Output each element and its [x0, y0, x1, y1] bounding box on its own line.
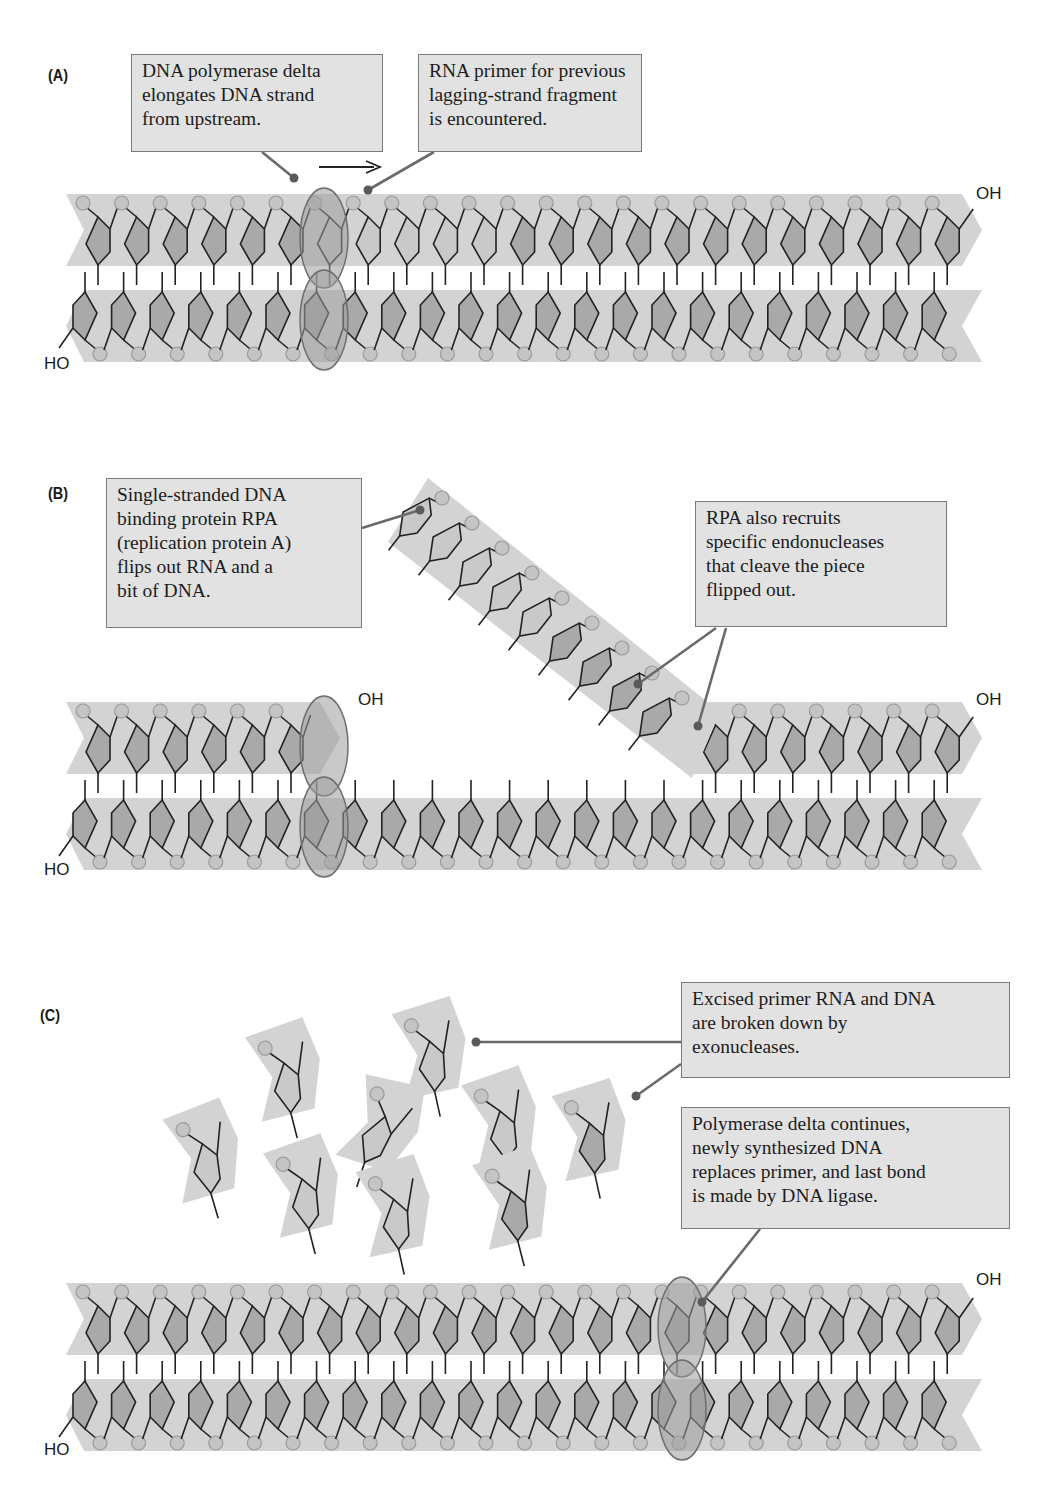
- phosphate-icon: [809, 1285, 823, 1299]
- callout-line: are broken down by: [692, 1011, 1000, 1035]
- phosphate-icon: [887, 1285, 901, 1299]
- free-dna-nucleotide: [470, 1144, 559, 1272]
- phosphate-icon: [462, 1285, 476, 1299]
- base-bond-line: [595, 1173, 601, 1199]
- flipped-out-primer-strand: [379, 478, 720, 778]
- rna-primer-callout: RNA primer for previous lagging-strand f…: [418, 54, 642, 152]
- phosphate-icon: [809, 704, 823, 718]
- phosphate-icon: [153, 196, 167, 210]
- callout-line: (replication protein A): [117, 531, 352, 555]
- phosphate-icon: [501, 1285, 515, 1299]
- three-prime-oh-label: OH: [976, 184, 1002, 204]
- free-rna-nucleotide: [354, 1153, 440, 1280]
- callout-line: that cleave the piece: [706, 554, 937, 578]
- callout-line: specific endonucleases: [706, 530, 937, 554]
- free-rna-nucleotide: [243, 1016, 332, 1144]
- panel-label-a: (A): [48, 66, 68, 86]
- phosphate-icon: [771, 196, 785, 210]
- panel-label-c: (C): [40, 1006, 60, 1026]
- callout-line: newly synthesized DNA: [692, 1136, 1000, 1160]
- phosphate-icon: [192, 704, 206, 718]
- phosphate-icon: [269, 196, 283, 210]
- phosphate-icon: [462, 196, 476, 210]
- phosphate-icon: [616, 1285, 630, 1299]
- phosphate-icon: [115, 1285, 129, 1299]
- callout-line: flips out RNA and a: [117, 555, 352, 579]
- panel-a-duplex: [59, 152, 982, 370]
- phosphate-icon: [925, 196, 939, 210]
- phosphate-icon: [423, 1285, 437, 1299]
- callout-line: from upstream.: [142, 107, 373, 131]
- ligase-callout: Polymerase delta continues, newly synthe…: [681, 1107, 1010, 1229]
- phosphate-icon: [269, 704, 283, 718]
- leader-endpoint-dot: [698, 1298, 707, 1307]
- phosphate-icon: [925, 704, 939, 718]
- phosphate-icon: [848, 196, 862, 210]
- phosphate-icon: [771, 1285, 785, 1299]
- phosphate-icon: [153, 1285, 167, 1299]
- phosphate-icon: [848, 704, 862, 718]
- leader-endpoint-dot: [290, 174, 299, 183]
- callout-line: elongates DNA strand: [142, 83, 373, 107]
- phosphate-icon: [308, 1285, 322, 1299]
- five-prime-ho-label: HO: [44, 1440, 70, 1460]
- leader-endpoint-dot: [694, 722, 703, 731]
- phosphate-icon: [942, 347, 956, 361]
- phosphate-icon: [809, 196, 823, 210]
- excised-nucleotide-fragments: [160, 995, 635, 1280]
- phosphate-icon: [385, 196, 399, 210]
- leader-endpoint-dot: [634, 680, 643, 689]
- phosphate-icon: [230, 704, 244, 718]
- phosphate-icon: [732, 1285, 746, 1299]
- phosphate-icon: [887, 704, 901, 718]
- three-prime-oh-label: OH: [976, 690, 1002, 710]
- phosphate-icon: [192, 196, 206, 210]
- base-bond-line: [435, 1091, 441, 1117]
- callout-line: DNA polymerase delta: [142, 59, 373, 83]
- callout-line: Single-stranded DNA: [117, 483, 352, 507]
- panel-label-b: (B): [48, 484, 68, 504]
- phosphate-icon: [501, 196, 515, 210]
- phosphate-icon: [346, 1285, 360, 1299]
- phosphate-icon: [539, 1285, 553, 1299]
- callout-line: RPA also recruits: [706, 506, 937, 530]
- phosphate-icon: [771, 704, 785, 718]
- three-prime-oh-label: OH: [976, 1270, 1002, 1290]
- phosphate-icon: [230, 1285, 244, 1299]
- cleaved-oh-label: OH: [358, 690, 384, 710]
- five-prime-ho-label: HO: [44, 860, 70, 880]
- base-bond-line: [569, 686, 580, 700]
- phosphate-icon: [115, 704, 129, 718]
- phosphate-icon: [153, 704, 167, 718]
- leader-endpoint-dot: [632, 1092, 641, 1101]
- phosphate-icon: [925, 1285, 939, 1299]
- callout-line: bit of DNA.: [117, 579, 352, 603]
- free-rna-nucleotide: [261, 1132, 350, 1260]
- phosphate-icon: [269, 1285, 283, 1299]
- phosphate-icon: [385, 1285, 399, 1299]
- phosphate-icon: [942, 1436, 956, 1450]
- rpa-flip-callout: Single-stranded DNA binding protein RPA …: [106, 478, 362, 628]
- callout-line: lagging-strand fragment: [429, 83, 632, 107]
- phosphate-icon: [616, 196, 630, 210]
- callout-line: replaces primer, and last bond: [692, 1160, 1000, 1184]
- phosphate-icon: [76, 196, 90, 210]
- phosphate-icon: [732, 196, 746, 210]
- phosphate-icon: [578, 196, 592, 210]
- callout-line: exonucleases.: [692, 1035, 1000, 1059]
- free-dna-nucleotide: [550, 1077, 636, 1204]
- phosphate-icon: [942, 855, 956, 869]
- callout-line: is encountered.: [429, 107, 632, 131]
- phosphate-icon: [887, 196, 901, 210]
- dna-polymerase-delta: [300, 696, 348, 877]
- leader-endpoint-dot: [416, 506, 425, 515]
- phosphate-icon: [578, 1285, 592, 1299]
- phosphate-icon: [230, 196, 244, 210]
- polymerase-lower-subunit: [300, 777, 348, 877]
- replication-primer-removal-figure: (A) (B) (C) DNA polymerase delta elongat…: [0, 0, 1056, 1491]
- polymerase-lower-subunit: [658, 1360, 706, 1460]
- phosphate-icon: [539, 196, 553, 210]
- callout-line: binding protein RPA: [117, 507, 352, 531]
- strand-backbone-band: [388, 478, 720, 778]
- base-bond-line: [211, 1193, 218, 1219]
